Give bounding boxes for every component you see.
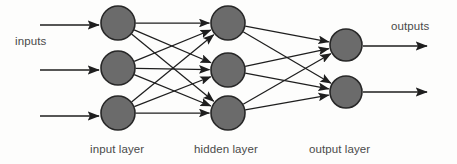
edges-input-to-hidden <box>132 23 214 113</box>
hidden-node-1 <box>211 6 245 40</box>
hidden-node-2 <box>211 53 245 87</box>
output-layer-label: output layer <box>309 144 370 156</box>
outputs-label: outputs <box>391 21 429 33</box>
input-node-3 <box>101 96 135 130</box>
output-node-2 <box>330 76 362 108</box>
edge-hidden-2-to-output-1 <box>245 49 329 67</box>
neural-network-diagram: inputs outputs input layer hidden layer … <box>0 0 457 164</box>
hidden-node-3 <box>211 96 245 130</box>
input-node-1 <box>101 6 135 40</box>
output-node-1 <box>330 29 362 61</box>
inputs-label: inputs <box>15 36 46 48</box>
hidden-layer-label: hidden layer <box>194 144 258 156</box>
edge-hidden-1-to-output-1 <box>245 26 329 42</box>
edge-input-3-to-hidden-2 <box>134 77 210 107</box>
input-node-2 <box>101 51 135 85</box>
edges-hidden-to-output <box>243 26 331 110</box>
input-layer-label: input layer <box>90 144 144 156</box>
edge-hidden-2-to-output-2 <box>245 73 329 89</box>
edge-hidden-3-to-output-2 <box>245 95 329 110</box>
network-graphic <box>0 0 457 164</box>
